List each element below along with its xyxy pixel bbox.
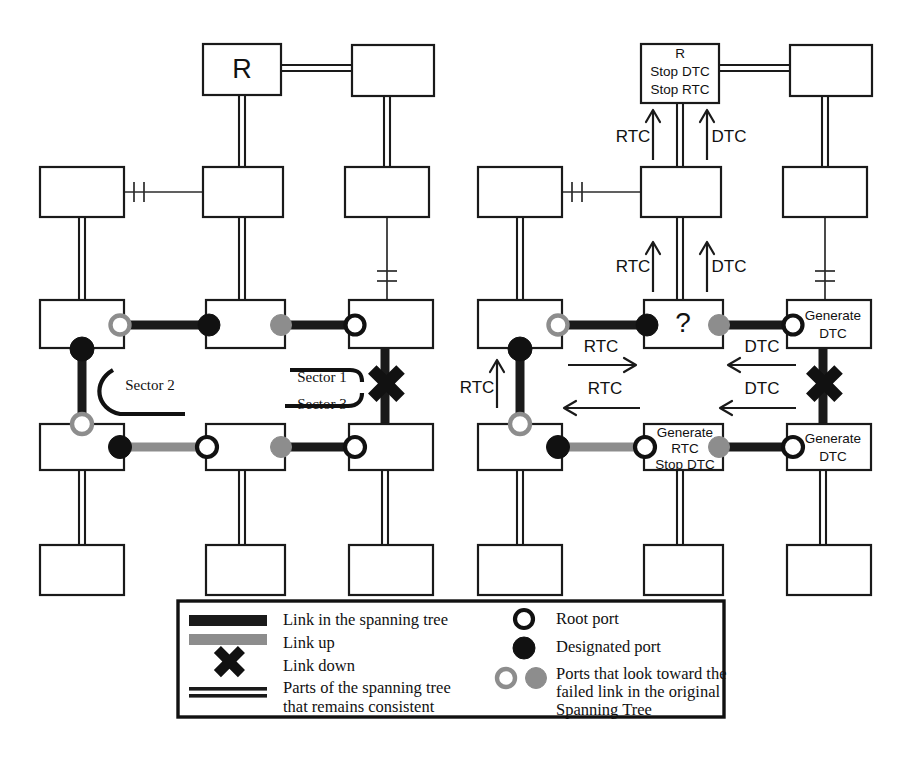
left-blocked-link-mid	[124, 182, 203, 202]
flow-label: DTC	[712, 127, 747, 146]
node-label-root-right-line3: Stop RTC	[650, 82, 709, 97]
flow-arrows: RTC DTC RTC DTC RTC	[460, 110, 796, 415]
spanning-tree-figure: R Sector 2 Sector 1	[0, 0, 904, 780]
sector-3-label: Sector 3	[297, 396, 347, 412]
legend-label: Designated port	[556, 637, 661, 656]
port-designated	[636, 314, 658, 336]
legend: Link in the spanning tree Link up Link d…	[178, 601, 726, 719]
port-looking-filled	[709, 315, 730, 336]
node-label-root-left: R	[232, 54, 252, 84]
legend-label: Link up	[283, 633, 335, 652]
node-box	[203, 167, 283, 217]
port-designated	[547, 436, 570, 459]
port-designated	[109, 436, 132, 459]
node-label-root-right-line2: Stop DTC	[650, 64, 710, 79]
node-box	[206, 545, 285, 595]
port-looking-open	[111, 316, 130, 335]
node-box	[478, 167, 562, 217]
legend-label: that remains consistent	[283, 697, 435, 716]
sector-1-label: Sector 1	[297, 369, 347, 385]
flow-label: RTC	[616, 127, 651, 146]
legend-label: Root port	[556, 609, 619, 628]
port-root	[345, 437, 365, 457]
legend-icon-looking-port-filled	[526, 668, 547, 689]
legend-label: Link down	[283, 656, 355, 675]
port-looking-open	[549, 316, 568, 335]
legend-label: Spanning Tree	[556, 700, 652, 719]
node-box	[790, 45, 872, 96]
legend-label: Parts of the spanning tree	[283, 678, 451, 697]
node-box	[783, 167, 867, 217]
port-looking-open	[72, 414, 92, 434]
node-box	[644, 545, 723, 595]
legend-label: failed link in the original	[556, 682, 720, 701]
node-label-gen-rtc-line3: Stop DTC	[655, 457, 715, 472]
flow-label: RTC	[584, 337, 619, 356]
sector-2-label: Sector 2	[125, 377, 175, 393]
legend-icon-link-up	[189, 634, 267, 645]
node-label-unknown: ?	[675, 307, 691, 338]
flow-label: DTC	[745, 337, 780, 356]
node-label-gen-dtc-lower-line2: DTC	[819, 449, 847, 464]
flow-label: DTC	[745, 379, 780, 398]
annotation-sector-2: Sector 2	[99, 370, 185, 414]
node-label-gen-rtc-line1: Generate	[657, 425, 713, 440]
node-label-gen-dtc-lower-line1: Generate	[805, 431, 861, 446]
flow-label: RTC	[588, 379, 623, 398]
node-box	[40, 167, 124, 217]
legend-label: Ports that look toward the	[556, 664, 726, 683]
node-box	[345, 167, 429, 217]
port-root	[346, 316, 365, 335]
figure-canvas: R Sector 2 Sector 1	[0, 0, 904, 780]
node-label-gen-rtc-line2: RTC	[671, 441, 699, 456]
node-box	[352, 45, 434, 96]
port-root	[197, 437, 217, 457]
port-looking-filled	[271, 315, 292, 336]
node-label-gen-dtc-upper-line2: DTC	[819, 326, 847, 341]
annotation-sector-1: Sector 1	[290, 369, 362, 385]
legend-label: Link in the spanning tree	[283, 610, 448, 629]
node-label-gen-dtc-upper-line1: Generate	[805, 308, 861, 323]
port-designated	[508, 337, 532, 361]
port-looking-open	[510, 414, 530, 434]
port-designated	[198, 314, 220, 336]
flow-label: DTC	[712, 257, 747, 276]
port-designated	[70, 337, 94, 361]
node-box	[787, 545, 871, 595]
legend-icon-link-in-spanning-tree	[189, 615, 267, 626]
left-blocked-link-right	[377, 217, 397, 300]
right-panel: R Stop DTC Stop RTC ? Generate DTC Gener…	[460, 44, 872, 595]
legend-icon-looking-port-open	[497, 669, 515, 687]
port-root	[783, 437, 803, 457]
node-box	[641, 167, 721, 217]
legend-icon-designated-port	[513, 637, 535, 659]
port-looking-filled	[709, 437, 730, 458]
node-label-root-right-line1: R	[675, 46, 685, 61]
right-blocked-link-right	[815, 217, 835, 300]
node-box	[40, 545, 124, 595]
node-box	[478, 545, 562, 595]
port-looking-filled	[271, 437, 292, 458]
port-root	[635, 437, 655, 457]
annotation-sector-3: Sector 3	[285, 393, 362, 412]
legend-icon-root-port	[515, 610, 533, 628]
left-panel: R Sector 2 Sector 1	[40, 44, 434, 595]
node-box	[349, 545, 433, 595]
flow-label: RTC	[460, 378, 495, 397]
right-blocked-link-mid	[562, 182, 641, 202]
port-root	[784, 316, 803, 335]
flow-label: RTC	[616, 257, 651, 276]
